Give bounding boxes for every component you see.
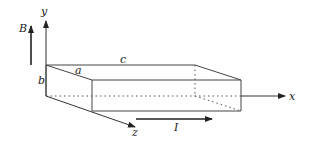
dimension-b-label: b: [38, 74, 45, 87]
z-axis-label: z: [131, 126, 138, 139]
current-label: I: [173, 121, 179, 134]
y-axis-label: y: [40, 5, 48, 18]
dimension-a-label: a: [75, 64, 82, 77]
dimension-c-label: c: [120, 53, 126, 66]
b-field-label: B: [18, 22, 27, 35]
slab-diagram: y B z x a b c I: [0, 0, 309, 141]
x-axis-label: x: [289, 90, 296, 103]
